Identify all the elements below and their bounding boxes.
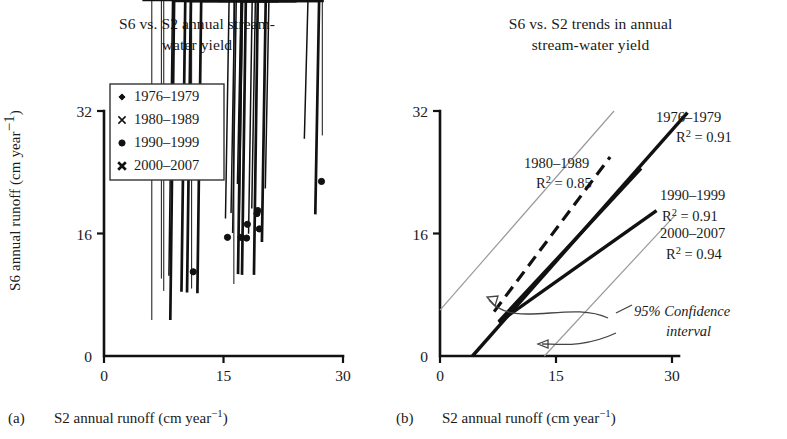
ci-line-upper-95-bound [440, 111, 614, 310]
ytick-label-0: 0 [84, 348, 92, 365]
trend-line-1990–1999 [499, 168, 641, 321]
annot-1980-1989-period: 1980–1989 [524, 155, 589, 171]
panel-b-plot-area: 32 16 0 0 15 30 [394, 0, 787, 400]
xtick-label-15: 15 [216, 367, 232, 384]
panel-b-axes [433, 111, 679, 363]
ytick-label-16: 16 [77, 226, 93, 243]
ci-label-line1: 95% Confidence [634, 303, 731, 319]
xtick-label-30: 30 [335, 367, 351, 384]
scatter-point-1990–1999 [224, 234, 230, 240]
confidence-band-layer [440, 111, 676, 356]
annot-1980-1989-r2: R2 = 0.85 [536, 174, 592, 191]
panel-b-caption: (b)S2 annual runoff (cm year−1) [394, 407, 787, 427]
legend-label-1976–1979: 1976–1979 [134, 88, 199, 104]
scatter-point-1990–1999 [244, 235, 250, 241]
x-axis-label-a-exponent: −1 [211, 407, 223, 419]
annot-1990-1999-r2: R2 = 0.91 [662, 207, 718, 224]
scatter-point-1990–1999 [318, 178, 324, 184]
xtick-label-0: 0 [100, 367, 108, 384]
x-axis-label-a: S2 annual runoff (cm year [54, 410, 211, 426]
xtick-label-15: 15 [548, 367, 564, 384]
ci-arrowhead-upper [487, 296, 498, 306]
legend-label-1990–1999: 1990–1999 [134, 134, 199, 150]
panel-a-scatter: S6 vs. S2 annual stream- water yield S6 … [0, 0, 394, 439]
xtick-label-30: 30 [664, 367, 680, 384]
legend-marker-1990–1999 [119, 140, 125, 146]
scatter-point-1990–1999 [190, 269, 196, 275]
annot-1976-1979-r2: R2 = 0.91 [676, 128, 732, 145]
ytick-label-32: 32 [413, 103, 429, 120]
ci-arrow-lower-curve [542, 333, 616, 344]
annot-2000-2007-period: 2000–2007 [660, 225, 725, 241]
scatter-point-1990–1999 [244, 221, 250, 227]
x-axis-label-b-tail: ) [611, 410, 616, 426]
panel-b-annotations: 1976–1979 R2 = 0.91 1980–1989 R2 = 0.85 … [524, 109, 732, 339]
annot-2000-2007-r2: R2 = 0.94 [666, 245, 722, 262]
ytick-label-16: 16 [413, 226, 429, 243]
panel-a-plot-area: 32 16 0 0 15 30 1976–19791980–19891990–1… [0, 0, 394, 400]
ytick-label-0: 0 [420, 348, 428, 365]
ci-tick-leader [616, 305, 632, 313]
ci-line-lower-95-bound [544, 214, 675, 356]
panel-b-trends: S6 vs. S2 trends in annual stream-water … [394, 0, 787, 439]
panel-a-legend: 1976–19791980–19891990–19992000–2007 [110, 84, 224, 180]
x-axis-label-b-exponent: −1 [599, 407, 611, 419]
xtick-label-0: 0 [436, 367, 444, 384]
panel-a-tag: (a) [8, 410, 54, 427]
panel-a-caption: (a)S2 annual runoff (cm year−1) [0, 407, 394, 427]
annot-1976-1979-period: 1976–1979 [656, 109, 721, 125]
axis-lines [440, 111, 679, 356]
ytick-label-32: 32 [77, 103, 93, 120]
x-axis-label-a-tail: ) [223, 410, 228, 426]
annot-1990-1999-period: 1990–1999 [660, 187, 725, 203]
x-axis-label-b: S2 annual runoff (cm year [442, 410, 599, 426]
trend-line-2000–2007 [499, 211, 657, 323]
figure-root: S6 vs. S2 annual stream- water yield S6 … [0, 0, 787, 439]
panel-b-tag: (b) [396, 410, 442, 427]
legend-label-1980–1989: 1980–1989 [134, 111, 199, 127]
ci-label-line2: interval [666, 323, 711, 339]
legend-label-2000–2007: 2000–2007 [134, 157, 199, 173]
